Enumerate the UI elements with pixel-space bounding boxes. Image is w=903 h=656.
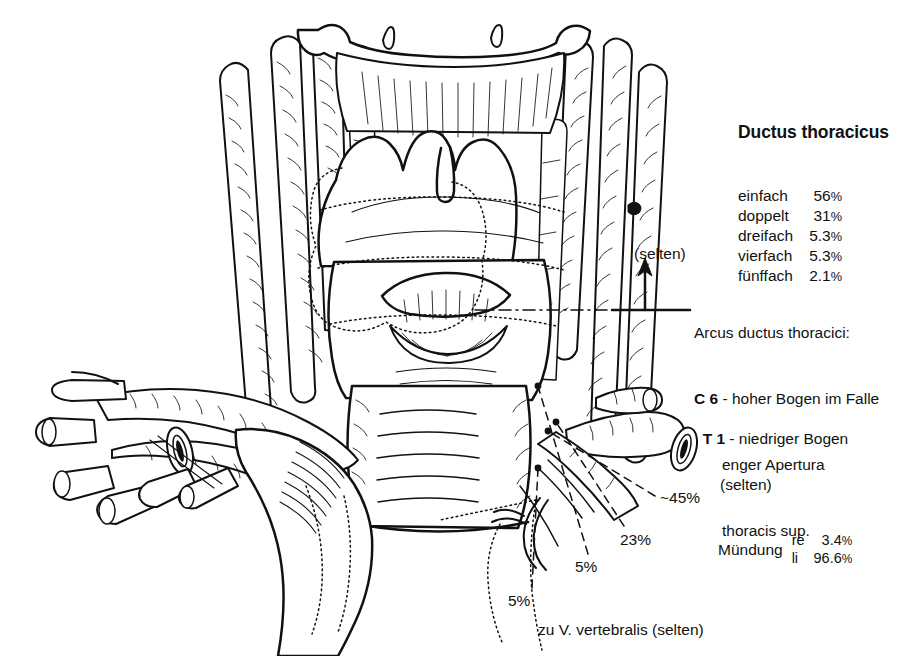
legend-row: einfach 56% (738, 186, 842, 206)
percent-label-5-left: 5% (508, 592, 530, 610)
t1-note: (selten) (694, 473, 848, 496)
v-vertebralis-note: zu V. vertebralis (selten) (538, 621, 704, 639)
arrow-selten-note: (selten) (634, 245, 686, 263)
t1-main-line: T 1 - niedriger Bogen (703, 430, 849, 447)
muendung-annotation: Mündung re 3.4% li 96.6% (718, 532, 852, 568)
leader-dot-5-left (535, 465, 542, 472)
legend-value: 56% (809, 186, 842, 206)
muendung-word: Mündung (718, 541, 792, 559)
legend-title: Ductus thoracicus (738, 122, 889, 143)
muendung-table: re 3.4% li 96.6% (792, 532, 853, 568)
t1-annotation: T 1 - niedriger Bogen (selten) (694, 404, 848, 519)
legend-value: 31% (809, 206, 842, 226)
muendung-side: re (792, 532, 814, 550)
percent-label-5-right: 5% (575, 558, 597, 576)
ductus-thoracicus-legend: Ductus thoracicus einfach 56% doppelt 31… (738, 86, 889, 304)
legend-label: dreifach (738, 226, 809, 246)
percent-label-45: ~45% (660, 489, 700, 507)
legend-row: vierfach 5.3% (738, 246, 842, 266)
arcus-heading: Arcus ductus thoracici: (694, 322, 879, 344)
t1-level-label: T 1 (703, 430, 725, 447)
muendung-value: 3.4% (814, 532, 853, 550)
cricoid-and-larynx-body (328, 260, 550, 400)
muendung-row: re 3.4% (792, 532, 853, 550)
legend-label: einfach (738, 186, 809, 206)
legend-row: doppelt 31% (738, 206, 842, 226)
muendung-value: 96.6% (814, 550, 853, 568)
muendung-side: li (792, 550, 814, 568)
t1-rest: - niedriger Bogen (725, 430, 848, 447)
legend-table: einfach 56% doppelt 31% dreifach 5.3% vi… (738, 186, 842, 286)
leader-dot-23 (553, 419, 560, 426)
percent-label-23: 23% (620, 531, 651, 549)
legend-label: vierfach (738, 246, 809, 266)
legend-value: 5.3% (809, 246, 842, 266)
leader-dot-5-right (535, 383, 542, 390)
legend-value: 5.3% (809, 226, 842, 246)
legend-row: dreifach 5.3% (738, 226, 842, 246)
muendung-row: li 96.6% (792, 550, 853, 568)
legend-label: doppelt (738, 206, 809, 226)
